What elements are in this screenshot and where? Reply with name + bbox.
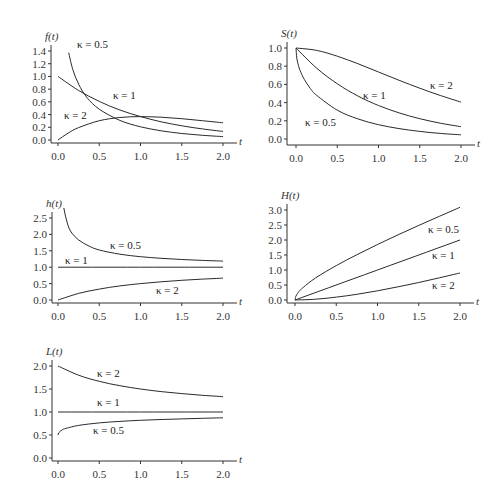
- series-label: κ = 2: [97, 367, 120, 379]
- y-axis-label: S(t): [281, 27, 297, 40]
- x-tick-label: 1.0: [372, 152, 386, 164]
- panel-density-f: 0.00.20.40.60.81.01.21.40.00.51.01.52.0f…: [32, 30, 243, 162]
- series-label: κ = 1: [113, 89, 136, 101]
- y-tick-label: 1.0: [268, 42, 282, 54]
- x-axis-label: t: [477, 137, 481, 149]
- y-tick-label: 1.2: [32, 58, 46, 70]
- x-tick-label: 0.5: [330, 152, 344, 164]
- x-tick-label: 2.0: [216, 150, 230, 162]
- x-tick-label: 0.0: [288, 310, 302, 322]
- y-tick-label: 0.0: [268, 133, 282, 145]
- series-label: κ = 2: [430, 79, 453, 91]
- series-label: κ = 0.5: [110, 239, 141, 251]
- y-tick-label: 1.5: [33, 245, 47, 257]
- x-tick-label: 0.5: [92, 468, 106, 480]
- series-label: κ = 0.5: [305, 116, 336, 128]
- y-tick-label: 0.8: [32, 83, 46, 95]
- x-tick-label: 0.5: [329, 310, 343, 322]
- x-tick-label: 1.0: [371, 310, 385, 322]
- y-tick-label: 1.0: [268, 264, 282, 276]
- y-tick-label: 0.0: [268, 294, 282, 306]
- x-tick-label: 0.0: [51, 150, 65, 162]
- x-tick-label: 0.5: [92, 150, 106, 162]
- y-tick-label: 0.6: [268, 78, 282, 90]
- y-tick-label: 1.4: [32, 45, 46, 57]
- x-axis-label: t: [239, 135, 243, 147]
- x-tick-label: 1.5: [175, 468, 189, 480]
- x-tick-label: 1.5: [175, 150, 189, 162]
- series-label: κ = 0.5: [93, 424, 124, 436]
- y-axis-label: f(t): [45, 30, 59, 43]
- series-label: κ = 0.5: [428, 223, 459, 235]
- x-tick-label: 2.0: [454, 152, 468, 164]
- y-axis-label: H(t): [280, 189, 300, 202]
- x-tick-label: 2.0: [216, 468, 230, 480]
- y-tick-label: 1.5: [268, 249, 282, 261]
- panel-mean-residual-life-L: 0.00.51.01.52.00.00.51.01.52.0L(t)tκ = 0…: [33, 345, 243, 480]
- y-tick-label: 1.5: [33, 383, 47, 395]
- x-tick-label: 1.5: [412, 310, 426, 322]
- series-label: κ = 1: [97, 396, 120, 408]
- survival-function-figure: 0.00.20.40.60.81.01.21.40.00.51.01.52.0f…: [0, 0, 501, 499]
- series-line: [58, 278, 223, 300]
- y-tick-label: 0.6: [32, 96, 46, 108]
- y-tick-label: 0.5: [268, 279, 282, 291]
- series-line: [69, 53, 223, 137]
- series-label: κ = 2: [432, 279, 455, 291]
- x-tick-label: 1.0: [134, 310, 148, 322]
- series-line: [58, 366, 223, 397]
- series-label: κ = 1: [363, 89, 386, 101]
- x-axis-label: t: [239, 295, 243, 307]
- x-tick-label: 0.0: [51, 468, 65, 480]
- y-tick-label: 0.2: [32, 121, 46, 133]
- y-tick-label: 0.4: [32, 109, 46, 121]
- x-tick-label: 0.0: [289, 152, 303, 164]
- x-axis-label: t: [239, 453, 243, 465]
- y-tick-label: 2.0: [268, 234, 282, 246]
- x-tick-label: 0.5: [92, 310, 106, 322]
- y-tick-label: 0.5: [33, 278, 47, 290]
- series-line: [58, 418, 223, 435]
- series-label: κ = 1: [65, 254, 88, 266]
- y-tick-label: 0.0: [33, 452, 47, 464]
- series-label: κ = 0.5: [77, 38, 108, 50]
- x-tick-label: 1.5: [175, 310, 189, 322]
- panel-cumulative-hazard-H: 0.00.51.01.52.02.53.00.00.51.01.52.0H(t)…: [268, 189, 480, 322]
- x-tick-label: 1.0: [134, 150, 148, 162]
- y-tick-label: 2.0: [33, 228, 47, 240]
- x-tick-label: 0.0: [51, 310, 65, 322]
- y-tick-label: 2.0: [33, 360, 47, 372]
- y-tick-label: 0.2: [268, 115, 282, 127]
- x-tick-label: 1.0: [134, 468, 148, 480]
- panel-survival-S: 0.00.20.40.60.81.00.00.51.01.52.0S(t)tκ …: [268, 27, 481, 164]
- y-tick-label: 2.5: [33, 212, 47, 224]
- y-tick-label: 0.4: [268, 97, 282, 109]
- series-label: κ = 1: [432, 249, 455, 261]
- y-tick-label: 0.0: [33, 294, 47, 306]
- y-tick-label: 0.5: [33, 429, 47, 441]
- y-tick-label: 3.0: [268, 204, 282, 216]
- y-axis-label: L(t): [45, 345, 63, 358]
- x-axis-label: t: [476, 295, 480, 307]
- y-tick-label: 1.0: [32, 70, 46, 82]
- y-tick-label: 1.0: [33, 406, 47, 418]
- y-tick-label: 0.0: [32, 134, 46, 146]
- y-tick-label: 0.8: [268, 60, 282, 72]
- x-tick-label: 2.0: [216, 310, 230, 322]
- series-label: κ = 2: [156, 284, 179, 296]
- x-tick-label: 2.0: [453, 310, 467, 322]
- series-line: [58, 76, 223, 131]
- y-tick-label: 1.0: [33, 261, 47, 273]
- x-tick-label: 1.5: [413, 152, 427, 164]
- y-axis-label: h(t): [46, 197, 62, 210]
- y-tick-label: 2.5: [268, 219, 282, 231]
- panel-hazard-h: 0.00.51.01.52.02.50.00.51.01.52.0h(t)tκ …: [33, 197, 243, 322]
- series-label: κ = 2: [64, 109, 87, 121]
